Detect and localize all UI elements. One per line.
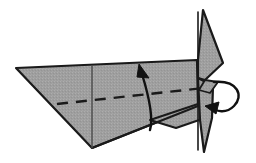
- paper-airplane-diagram: [0, 0, 256, 163]
- origami-figure-container: [0, 0, 256, 163]
